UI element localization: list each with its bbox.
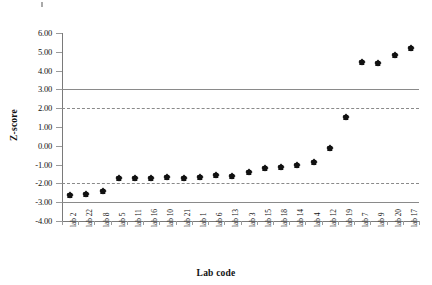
y-axis-line [62, 33, 63, 222]
data-point [342, 113, 349, 120]
y-axis-tick [56, 146, 62, 147]
y-axis-tick-label: 3.00 [8, 85, 52, 94]
x-axis-tick [241, 221, 242, 225]
x-axis-category-label: lab 13 [232, 209, 240, 227]
x-axis-tick [94, 221, 95, 225]
data-point [196, 173, 203, 180]
x-axis-tick [224, 221, 225, 225]
x-axis-category-label: lab 8 [103, 213, 111, 227]
x-axis-category-label: lab 6 [216, 213, 224, 227]
data-point [115, 174, 122, 181]
data-point [407, 44, 414, 51]
x-axis-category-label: lab 9 [378, 213, 386, 227]
data-point [180, 174, 187, 181]
x-axis-tick [354, 221, 355, 225]
data-point [229, 172, 236, 179]
data-point [326, 144, 333, 151]
y-axis-tick-label: 6.00 [8, 29, 52, 38]
data-point [148, 175, 155, 182]
x-axis-category-label: lab 17 [411, 209, 419, 227]
x-axis-tick [176, 221, 177, 225]
x-axis-category-label: lab 3 [249, 213, 257, 227]
y-axis-tick [56, 127, 62, 128]
x-axis-category-label: lab 19 [346, 209, 354, 227]
x-axis-tick [370, 221, 371, 225]
x-axis-category-label: lab 4 [314, 213, 322, 227]
reference-line-warning-lower-3 [62, 202, 419, 203]
data-point [245, 169, 252, 176]
x-axis-category-label: lab 2 [70, 213, 78, 227]
data-point [67, 191, 74, 198]
data-point [213, 171, 220, 178]
data-point [261, 165, 268, 172]
x-axis-tick [208, 221, 209, 225]
data-point [164, 174, 171, 181]
z-score-chart: 6.005.004.003.002.001.000.00-1.00-2.00-3… [0, 0, 432, 285]
x-axis-tick [289, 221, 290, 225]
y-axis-tick-label: -3.00 [8, 198, 52, 207]
x-axis-tick [387, 221, 388, 225]
data-point [278, 164, 285, 171]
scan-artifact-mark [41, 2, 43, 7]
y-axis-tick-label: -4.00 [8, 217, 52, 226]
x-axis-tick [143, 221, 144, 225]
x-axis-tick [419, 221, 420, 225]
x-axis-category-label: lab 14 [297, 209, 305, 227]
data-point [375, 60, 382, 67]
y-axis-tick-label: -2.00 [8, 179, 52, 188]
y-axis-title: Z-score [9, 95, 19, 155]
y-axis-tick [56, 165, 62, 166]
data-point [99, 187, 106, 194]
x-axis-category-label: lab 18 [281, 209, 289, 227]
y-axis-tick-label: 5.00 [8, 48, 52, 57]
data-point [359, 59, 366, 66]
x-axis-tick [127, 221, 128, 225]
y-axis-tick [56, 52, 62, 53]
x-axis-category-label: lab 21 [184, 209, 192, 227]
data-point [294, 161, 301, 168]
x-axis-category-label: lab 16 [151, 209, 159, 227]
x-axis-category-label: lab 10 [167, 209, 175, 227]
x-axis-category-label: lab 22 [86, 209, 94, 227]
x-axis-category-label: lab 7 [362, 213, 370, 227]
x-axis-category-label: lab 12 [330, 209, 338, 227]
reference-line-action-upper-2 [62, 108, 419, 109]
data-point [391, 51, 398, 58]
y-axis-tick-label: 4.00 [8, 67, 52, 76]
x-axis-category-label: lab 5 [119, 213, 127, 227]
x-axis-tick [159, 221, 160, 225]
x-axis-tick [273, 221, 274, 225]
x-axis-category-label: lab 1 [200, 213, 208, 227]
x-axis-tick [338, 221, 339, 225]
x-axis-category-label: lab 15 [265, 209, 273, 227]
y-axis-tick-label: -1.00 [8, 161, 52, 170]
x-axis-tick [305, 221, 306, 225]
reference-line-action-lower-2 [62, 183, 419, 184]
x-axis-category-label: lab 11 [135, 209, 143, 227]
x-axis-tick [62, 221, 63, 225]
data-point [310, 158, 317, 165]
x-axis-title: Lab code [0, 268, 432, 278]
reference-line-warning-upper-3 [62, 89, 419, 90]
x-axis-category-label: lab 20 [395, 209, 403, 227]
x-axis-tick [78, 221, 79, 225]
data-point [83, 190, 90, 197]
data-point [131, 174, 138, 181]
y-axis-tick [56, 71, 62, 72]
y-axis-tick [56, 33, 62, 34]
